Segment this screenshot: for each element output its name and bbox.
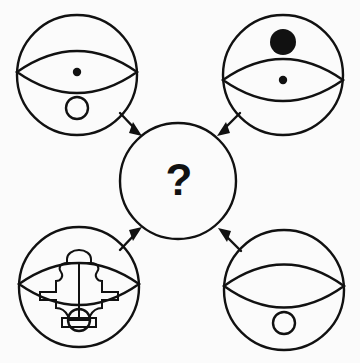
lower-small-circle — [273, 312, 295, 334]
node-center-unknown[interactable]: ? — [120, 123, 236, 239]
question-mark-label: ? — [166, 155, 193, 204]
eye-lens-shape — [224, 265, 344, 308]
node-bottom-left[interactable] — [19, 227, 139, 347]
lower-small-circle — [66, 97, 88, 119]
analogy-diagram: ? — [0, 0, 360, 363]
node-top-left[interactable] — [17, 15, 137, 135]
node-outer-circle — [224, 230, 344, 350]
arrow-top-right-to-center — [217, 113, 240, 136]
arrow-bottom-right-to-center — [218, 228, 241, 251]
eye-pupil-dot — [279, 76, 287, 84]
inner-anvil-puzzle-figure — [40, 250, 118, 327]
diagram-canvas: ? — [0, 0, 360, 363]
figure-dome-cap — [67, 250, 91, 263]
eye-pupil-dot — [73, 68, 81, 76]
top-filled-marker-circle — [270, 29, 296, 55]
node-bottom-right[interactable] — [224, 230, 344, 350]
node-top-right[interactable] — [223, 15, 343, 135]
arrow-top-left-to-center — [120, 113, 142, 136]
arrow-bottom-left-to-center — [120, 227, 142, 250]
